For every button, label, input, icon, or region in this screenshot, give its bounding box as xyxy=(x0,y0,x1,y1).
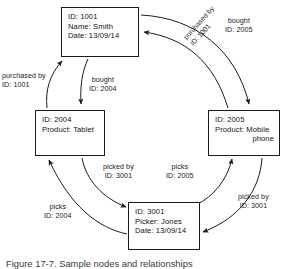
node-tablet-line-1: ID: 2004 xyxy=(42,115,99,125)
edge-label-type: bought xyxy=(92,75,114,84)
figure-caption: Figure 17-7. Sample nodes and relationsh… xyxy=(6,258,193,269)
edge-purchased-by-1001 xyxy=(47,61,62,108)
node-mobile-line-2: Product: Mobile xyxy=(215,125,274,135)
node-picker-line-3: Date: 13/09/14 xyxy=(135,226,194,236)
edge-picks-2005 xyxy=(196,159,232,205)
edge-label-id: ID: 2005 xyxy=(166,171,194,180)
node-mobile-line-3: phone xyxy=(215,134,274,144)
edge-label-id: ID: 3001 xyxy=(238,201,269,210)
node-product-2004[interactable]: ID: 2004 Product: Tablet xyxy=(35,110,105,156)
edge-label-id: ID: 3001 xyxy=(103,171,134,180)
edge-label-type: picks xyxy=(49,202,66,211)
node-picker-line-1: ID: 3001 xyxy=(135,207,194,217)
edge-label-id: ID: 2005 xyxy=(225,25,253,34)
edge-label-type: picked by xyxy=(103,162,134,171)
edge-label-id: ID: 1001 xyxy=(2,80,46,89)
edge-label-id: ID: 2004 xyxy=(44,211,72,220)
edge-purchased-by-1001-b xyxy=(144,32,228,108)
node-person-1001[interactable]: ID: 1001 Name: Smith Date: 13/09/14 xyxy=(61,7,139,57)
edge-label-picks-2005: picks ID: 2005 xyxy=(166,162,194,181)
edge-label-picked-by-3001-b: picked by ID: 3001 xyxy=(238,192,269,211)
edge-label-type: bought xyxy=(228,16,250,25)
edge-label-type: purchased by xyxy=(2,71,46,80)
node-mobile-line-1: ID: 2005 xyxy=(215,115,274,125)
node-person-line-2: Name: Smith xyxy=(68,22,133,32)
node-person-line-1: ID: 1001 xyxy=(68,12,133,22)
node-picker-3001[interactable]: ID: 3001 Picker: Jones Date: 13/09/14 xyxy=(128,202,200,250)
node-person-line-3: Date: 13/09/14 xyxy=(68,31,133,41)
edge-label-id: ID: 2004 xyxy=(89,84,117,93)
node-product-2005[interactable]: ID: 2005 Product: Mobile phone xyxy=(208,110,280,156)
edge-label-picks-2004: picks ID: 2004 xyxy=(44,202,72,221)
node-picker-line-2: Picker: Jones xyxy=(135,217,194,227)
edge-label-purchased-by-1001: purchased by ID: 1001 xyxy=(2,71,46,90)
edge-label-bought-2004: bought ID: 2004 xyxy=(89,75,117,94)
edge-bought-2004 xyxy=(81,59,88,104)
edge-label-picked-by-3001: picked by ID: 3001 xyxy=(103,162,134,181)
edge-label-bought-2005: bought ID: 2005 xyxy=(225,16,253,35)
edge-label-type: picks xyxy=(171,162,188,171)
node-tablet-line-2: Product: Tablet xyxy=(42,125,99,135)
edge-label-type: picked by xyxy=(238,192,269,201)
